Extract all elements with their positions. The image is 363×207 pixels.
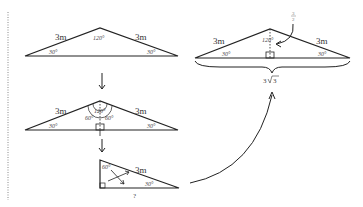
result-base-left-angle: 30° xyxy=(221,51,231,57)
step3-unknown-side: ? xyxy=(133,192,136,200)
down-arrow-icon xyxy=(99,139,105,152)
base-brace xyxy=(195,61,350,73)
step3-hypotenuse: 3m xyxy=(135,165,147,175)
step2-split-right-angle: 60° xyxy=(105,115,114,121)
step2-split-left-angle: 60° xyxy=(85,115,94,121)
step2-base-right-angle: 30° xyxy=(146,123,156,129)
down-arrow-icon xyxy=(99,73,105,89)
half-label-numerator: 3 xyxy=(292,11,295,16)
step1-side-left: 3m xyxy=(55,32,67,42)
step2-side-left: 3m xyxy=(55,106,67,116)
result-base-right-angle: 30° xyxy=(317,51,327,57)
step1-apex-angle: 120° xyxy=(93,35,105,41)
curved-pointer-arrow-icon xyxy=(276,24,293,47)
step1-side-right: 3m xyxy=(135,32,147,42)
base-length-radicand: 3 xyxy=(273,77,277,85)
step3-base-angle: 30° xyxy=(144,181,154,187)
step3-top-angle: 60° xyxy=(102,164,111,170)
cross-arrows-icon xyxy=(108,170,129,184)
step1-base-left-angle: 30° xyxy=(48,49,58,55)
step3-right-triangle: 3m 60° 30° ? xyxy=(100,160,179,200)
curved-arrow-icon xyxy=(190,92,275,183)
step2-triangle: 3m 3m 120° 60° 60° 30° 30° xyxy=(25,101,178,136)
right-angle-marker xyxy=(100,183,105,188)
result-side-right: 3m xyxy=(316,36,328,46)
base-length-coefficient: 3 xyxy=(263,77,267,85)
step1-triangle: 3m 3m 120° 30° 30° xyxy=(25,28,178,56)
result-apex-angle: 120° xyxy=(262,37,274,43)
result-triangle: 3m 3m 120° 30° 30° 3 2 3 3 xyxy=(195,11,350,85)
step2-apex-angle: 120° xyxy=(94,108,106,114)
step2-side-right: 3m xyxy=(135,106,147,116)
diagram-canvas: 3m 3m 120° 30° 30° 3m 3m 120° 60° 60° 30… xyxy=(0,0,363,207)
step1-base-right-angle: 30° xyxy=(146,49,156,55)
step2-base-left-angle: 30° xyxy=(48,123,58,129)
half-label-denominator: 2 xyxy=(292,17,295,22)
result-side-left: 3m xyxy=(213,36,225,46)
